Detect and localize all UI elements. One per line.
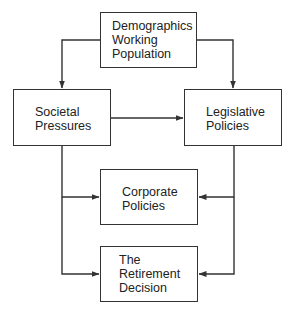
node-corporate-policies: Corporate Policies xyxy=(100,169,198,225)
node-label: Legislative Policies xyxy=(206,105,265,133)
node-label: Demographics Working Population xyxy=(112,19,193,61)
node-retirement-decision: The Retirement Decision xyxy=(100,246,198,302)
edge-legislative-corporate xyxy=(199,146,234,197)
edge-legislative-retirement xyxy=(199,197,234,274)
node-label: Corporate Policies xyxy=(122,185,178,213)
edge-demographics-legislative xyxy=(197,40,233,88)
edge-societal-corporate xyxy=(62,146,99,197)
edge-demographics-societal xyxy=(62,40,100,88)
edge-societal-retirement xyxy=(62,197,99,274)
node-label: The Retirement Decision xyxy=(119,253,180,295)
node-societal-pressures: Societal Pressures xyxy=(13,89,111,146)
node-label: Societal Pressures xyxy=(35,105,91,133)
node-demographics: Demographics Working Population xyxy=(100,12,197,68)
node-legislative-policies: Legislative Policies xyxy=(184,89,282,146)
